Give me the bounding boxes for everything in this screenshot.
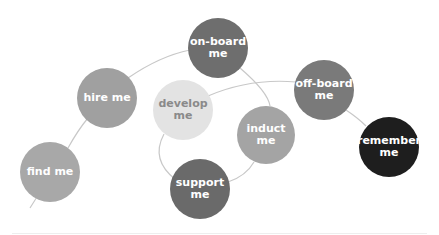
node-label: hire me bbox=[83, 92, 130, 104]
node-offboard-me: off-board me bbox=[294, 60, 354, 120]
connector-offboard-remember bbox=[346, 110, 366, 126]
connector-find-hire bbox=[68, 118, 88, 148]
node-label: find me bbox=[27, 166, 74, 178]
node-induct-me: induct me bbox=[237, 106, 295, 164]
node-find-me: find me bbox=[20, 142, 80, 202]
bottom-divider bbox=[12, 233, 427, 234]
node-label-line2: me bbox=[174, 110, 193, 122]
node-label-line2: me bbox=[315, 90, 334, 102]
connector-onboard-induct bbox=[240, 68, 270, 106]
node-label-line2: me bbox=[209, 48, 228, 60]
node-remember-me: remember me bbox=[359, 117, 419, 177]
connector-hire-onboard bbox=[128, 50, 190, 78]
node-label-line2: me bbox=[191, 189, 210, 201]
node-hire-me: hire me bbox=[77, 68, 137, 128]
node-develop-me: develop me bbox=[153, 80, 213, 140]
node-support-me: support me bbox=[170, 159, 230, 219]
connector-develop-offboard bbox=[208, 81, 296, 96]
node-label-line2: me bbox=[380, 147, 399, 159]
connector-induct-support bbox=[228, 162, 254, 182]
node-onboard-me: on-board me bbox=[188, 18, 248, 78]
node-label-line2: me bbox=[257, 135, 276, 147]
